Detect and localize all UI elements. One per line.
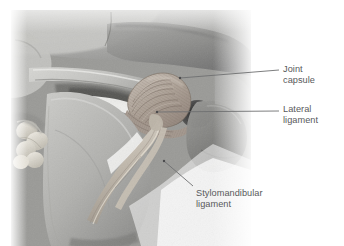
label-joint-capsule-line2: capsule [283,75,315,86]
label-joint-capsule-line1: Joint [283,64,315,75]
label-lateral-ligament: Lateral ligament [283,104,318,127]
label-lateral-ligament-line2: ligament [283,115,318,126]
label-stylomandibular-ligament: Stylomandibular ligament [196,188,263,211]
label-lateral-ligament-line1: Lateral [283,104,318,115]
label-stylomandibular-ligament-line2: ligament [196,199,263,210]
anatomy-figure: Joint capsule Lateral ligament Stylomand… [0,0,344,246]
label-joint-capsule: Joint capsule [283,64,315,87]
label-stylomandibular-ligament-line1: Stylomandibular [196,188,263,199]
